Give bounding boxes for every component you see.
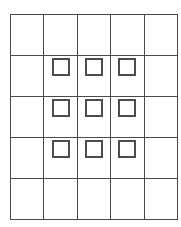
square-r3-c3 <box>85 99 103 117</box>
grid-row <box>11 179 178 220</box>
grid-cell-r3-c1 <box>11 97 44 138</box>
square-r4-c3 <box>85 140 103 158</box>
grid-cell-r4-c4 <box>111 138 144 179</box>
grid-row <box>11 56 178 97</box>
grid-cell-r4-c1 <box>11 138 44 179</box>
grid-cell-r2-c3 <box>77 56 110 97</box>
grid-cell-r2-c2 <box>44 56 77 97</box>
grid-cell-r4-c5 <box>144 138 177 179</box>
square-r3-c2 <box>52 99 70 117</box>
grid-cell-r5-c1 <box>11 179 44 220</box>
grid-cell-r5-c4 <box>111 179 144 220</box>
grid-cell-r2-c5 <box>144 56 177 97</box>
figure-description: A five by five rectangular grid. Nine sm… <box>0 0 1 1</box>
figure-canvas: Grid with nine squares A five by five re… <box>0 0 181 227</box>
grid-body <box>11 15 178 220</box>
grid-table <box>10 14 178 220</box>
grid-cell-r1-c4 <box>111 15 144 56</box>
grid-figure <box>10 14 172 214</box>
grid-cell-r3-c4 <box>111 97 144 138</box>
grid-cell-r4-c2 <box>44 138 77 179</box>
grid-cell-r4-c3 <box>77 138 110 179</box>
grid-row <box>11 97 178 138</box>
grid-cell-r5-c2 <box>44 179 77 220</box>
grid-row <box>11 138 178 179</box>
square-r2-c4 <box>118 58 136 76</box>
grid-cell-r3-c2 <box>44 97 77 138</box>
grid-cell-r1-c5 <box>144 15 177 56</box>
grid-cell-r2-c1 <box>11 56 44 97</box>
grid-cell-r3-c3 <box>77 97 110 138</box>
square-r4-c2 <box>52 140 70 158</box>
square-r3-c4 <box>118 99 136 117</box>
grid-cell-r3-c5 <box>144 97 177 138</box>
grid-cell-r1-c2 <box>44 15 77 56</box>
square-r2-c2 <box>52 58 70 76</box>
square-r4-c4 <box>118 140 136 158</box>
grid-cell-r1-c1 <box>11 15 44 56</box>
square-r2-c3 <box>85 58 103 76</box>
grid-cell-r2-c4 <box>111 56 144 97</box>
grid-cell-r5-c5 <box>144 179 177 220</box>
grid-cell-r1-c3 <box>77 15 110 56</box>
figure-title: Grid with nine squares <box>0 0 1 1</box>
grid-cell-r5-c3 <box>77 179 110 220</box>
grid-row <box>11 15 178 56</box>
